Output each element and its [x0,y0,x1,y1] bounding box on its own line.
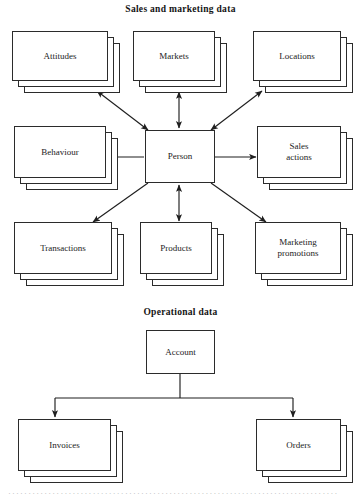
node-marketing-promotions[interactable]: Marketing promotions [255,222,353,286]
node-attitudes[interactable]: Attitudes [12,31,120,93]
node-locations[interactable]: Locations [253,31,353,93]
node-products[interactable]: Products [140,222,224,286]
card-sheet-front [133,31,215,81]
node-invoices[interactable]: Invoices [18,419,123,483]
section-title-operational: Operational data [0,307,361,317]
card-sheet-front [257,126,341,178]
node-sales-actions[interactable]: Sales actions [257,126,353,190]
edge-person-locations [211,91,262,130]
page-bottom-text-fragment: ········································… [8,488,353,497]
node-account[interactable]: Account [146,330,215,374]
card-sheet-front [140,222,212,274]
card-sheet-front [253,31,341,81]
node-transactions[interactable]: Transactions [14,222,124,286]
node-markets[interactable]: Markets [133,31,227,93]
card-sheet-front [12,31,108,81]
card-sheet-front [255,222,341,274]
card-sheet-front [256,419,341,471]
card-sheet-front [14,126,106,178]
section-title-sales-and-marketing: Sales and marketing data [0,4,361,14]
node-label-account: Account [165,347,196,358]
card-sheet-front [18,419,111,471]
erd-diagram: Sales and marketing data Operational dat… [0,0,361,501]
node-orders[interactable]: Orders [256,419,353,483]
card-sheet-front [14,222,112,274]
node-person[interactable]: Person [145,130,215,183]
node-label-person: Person [168,151,193,162]
node-behaviour[interactable]: Behaviour [14,126,118,190]
edge-person-attitudes [97,91,148,130]
